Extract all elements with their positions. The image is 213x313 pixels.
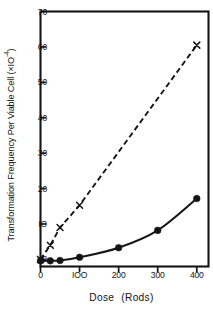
data-point-filled-circle-series-4	[115, 244, 122, 251]
axes-frame	[41, 12, 209, 267]
x-axis-label-word2: (Rods)	[121, 292, 153, 303]
data-point-filled-circle-series-6	[193, 195, 200, 202]
data-point-filled-circle-series-2	[57, 257, 64, 264]
data-point-x-marker-series-3	[77, 202, 83, 208]
data-point-x-marker-series-2	[57, 225, 63, 231]
data-point-filled-circle-series-5	[154, 227, 161, 234]
x-axis-label: Dose(Rods)	[30, 292, 213, 303]
series-line-x-marker-series	[41, 45, 197, 259]
data-point-x-marker-series-4	[194, 42, 200, 48]
x-axis-label-word1: Dose	[89, 292, 114, 303]
data-point-filled-circle-series-1	[47, 258, 54, 265]
plot-area	[0, 0, 213, 313]
data-point-x-marker-series-1	[47, 242, 53, 248]
series-line-filled-circle-series	[41, 199, 197, 261]
data-point-filled-circle-series-0	[37, 258, 44, 265]
data-point-filled-circle-series-3	[76, 254, 83, 261]
chart-figure: Transformation Frequency Per Viable Cell…	[0, 0, 213, 313]
